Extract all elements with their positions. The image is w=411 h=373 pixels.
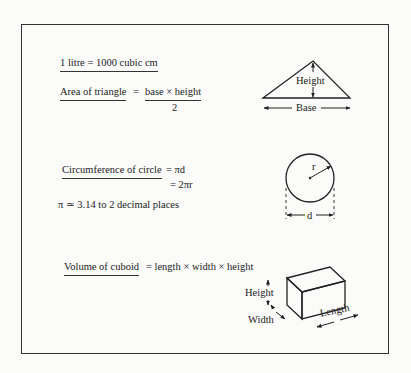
diagrams-layer: Height Base r d Height Width Length — [0, 0, 411, 373]
circle-diagram: r d — [286, 154, 334, 221]
circle-diameter-label: d — [307, 210, 313, 221]
cuboid-height-label: Height — [245, 287, 274, 298]
triangle-diagram: Height Base — [263, 61, 350, 113]
triangle-base-label: Base — [296, 102, 317, 113]
cuboid-width-label: Width — [248, 314, 275, 325]
cuboid-length-label: Length — [319, 302, 351, 319]
triangle-height-label: Height — [296, 75, 325, 86]
circle-radius-label: r — [312, 161, 316, 172]
